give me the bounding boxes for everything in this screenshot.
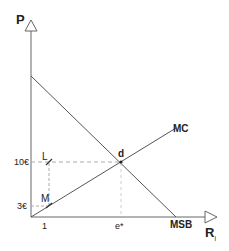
x-axis-arrow-icon xyxy=(205,211,217,223)
equilibrium-label: d xyxy=(118,149,124,159)
x-axis-label-sub: i xyxy=(214,235,216,242)
mc-label: MC xyxy=(173,124,189,134)
x-axis-label-main: R xyxy=(205,225,214,240)
tick-3-euro: 3€ xyxy=(17,201,27,211)
tick-e-star: e* xyxy=(115,221,124,231)
point-l-label: L xyxy=(42,152,48,162)
mc-curve xyxy=(31,128,176,217)
y-axis-label: P xyxy=(16,15,25,25)
msb-label: MSB xyxy=(170,220,192,230)
msb-curve xyxy=(31,76,176,217)
tick-10-euro: 10€ xyxy=(14,157,29,167)
tick-one: 1 xyxy=(42,221,47,231)
y-axis-arrow-icon xyxy=(25,20,37,31)
x-axis-label: Ri xyxy=(205,228,216,244)
equilibrium-point xyxy=(119,160,122,163)
point-m-label: M xyxy=(41,194,49,204)
diagram-canvas xyxy=(0,0,229,251)
